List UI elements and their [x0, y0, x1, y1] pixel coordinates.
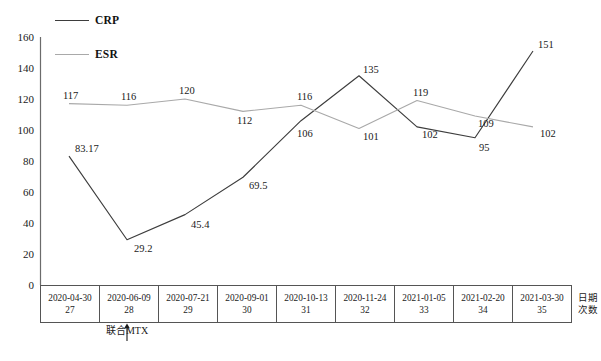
data-label-crp-5: 135	[363, 64, 379, 75]
mtx-annotation-label: 联合MTX	[92, 325, 162, 337]
x-axis-category-table: 2020-04-30272020-06-09282020-07-21292020…	[40, 285, 601, 323]
series-layer	[69, 51, 533, 240]
x-axis-count-1: 28	[100, 304, 158, 316]
x-axis-cell-6: 2021-01-0533	[395, 286, 454, 323]
line-chart: 160140120100806040200 CRPESR 83.1729.245…	[0, 0, 601, 361]
x-axis-corner-label: 日期次数	[572, 286, 601, 323]
x-axis-cell-1: 2020-06-0928	[100, 286, 159, 323]
data-label-crp-4: 106	[297, 128, 313, 139]
x-axis-count-0: 27	[41, 304, 99, 316]
data-label-esr-4: 116	[297, 91, 312, 102]
x-axis-count-5: 32	[336, 304, 394, 316]
x-axis-cell-2: 2020-07-2129	[159, 286, 218, 323]
data-label-esr-8: 102	[540, 128, 556, 139]
data-label-crp-1: 29.2	[134, 243, 152, 254]
data-label-crp-2: 45.4	[191, 219, 209, 230]
x-axis-date-1: 2020-06-09	[100, 292, 158, 304]
data-label-esr-7: 109	[478, 118, 494, 129]
x-axis-date-5: 2020-11-24	[336, 292, 394, 304]
x-axis-corner-row1: 日期	[578, 292, 601, 304]
data-label-crp-0: 83.17	[75, 143, 99, 154]
x-axis-count-2: 29	[159, 304, 217, 316]
x-axis-date-0: 2020-04-30	[41, 292, 99, 304]
data-label-esr-5: 101	[363, 131, 379, 142]
data-label-esr-6: 119	[413, 87, 428, 98]
data-label-esr-1: 116	[121, 91, 136, 102]
x-axis-row: 2020-04-30272020-06-09282020-07-21292020…	[41, 286, 601, 323]
data-label-crp-3: 69.5	[249, 180, 267, 191]
x-axis-count-4: 31	[277, 304, 335, 316]
x-axis-cell-0: 2020-04-3027	[41, 286, 100, 323]
x-axis-date-8: 2021-03-30	[513, 292, 571, 304]
data-label-esr-2: 120	[179, 85, 195, 96]
data-label-crp-8: 151	[538, 39, 554, 50]
x-axis-cell-3: 2020-09-0130	[218, 286, 277, 323]
series-line-esr	[69, 99, 533, 128]
x-axis-cell-7: 2021-02-2034	[454, 286, 513, 323]
x-axis-cell-4: 2020-10-1331	[277, 286, 336, 323]
x-axis-count-7: 34	[454, 304, 512, 316]
data-label-crp-7: 95	[479, 142, 490, 153]
series-line-crp	[69, 51, 533, 240]
x-axis-corner-row2: 次数	[578, 304, 601, 316]
x-axis-date-2: 2020-07-21	[159, 292, 217, 304]
data-label-esr-3: 112	[237, 115, 252, 126]
x-axis-count-3: 30	[218, 304, 276, 316]
data-label-esr-0: 117	[63, 90, 78, 101]
x-axis-date-7: 2021-02-20	[454, 292, 512, 304]
x-axis-date-6: 2021-01-05	[395, 292, 453, 304]
x-axis-cell-5: 2020-11-2432	[336, 286, 395, 323]
x-axis-date-3: 2020-09-01	[218, 292, 276, 304]
x-axis-date-4: 2020-10-13	[277, 292, 335, 304]
x-axis-count-6: 33	[395, 304, 453, 316]
x-axis-cell-8: 2021-03-3035	[513, 286, 572, 323]
x-axis-count-8: 35	[513, 304, 571, 316]
data-label-crp-6: 102	[422, 129, 438, 140]
